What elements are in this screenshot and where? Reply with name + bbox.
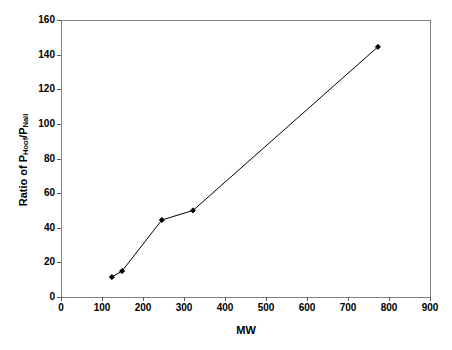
x-tick-label: 800 [369,303,409,313]
chart-figure: Ratio of PHoof/PNail 0204060801001201401… [0,0,452,350]
x-tick-label: 600 [287,303,327,313]
x-tick-label: 100 [82,303,122,313]
x-tick-label: 400 [205,303,245,313]
x-tick-label: 500 [246,303,286,313]
x-tick-label: 900 [410,303,450,313]
x-axis-tick-labels: 0100200300400500600700800900 [0,0,452,350]
x-tick-label: 200 [123,303,163,313]
x-tick-label: 300 [164,303,204,313]
x-tick-label: 700 [328,303,368,313]
x-tick-label: 0 [41,303,81,313]
x-axis-title: MW [61,324,431,336]
